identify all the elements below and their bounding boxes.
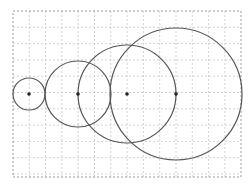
center-point-3 xyxy=(125,92,129,96)
center-point-4 xyxy=(174,92,178,96)
circles-diagram xyxy=(0,0,251,187)
center-point-1 xyxy=(27,92,31,96)
center-point-2 xyxy=(76,92,80,96)
